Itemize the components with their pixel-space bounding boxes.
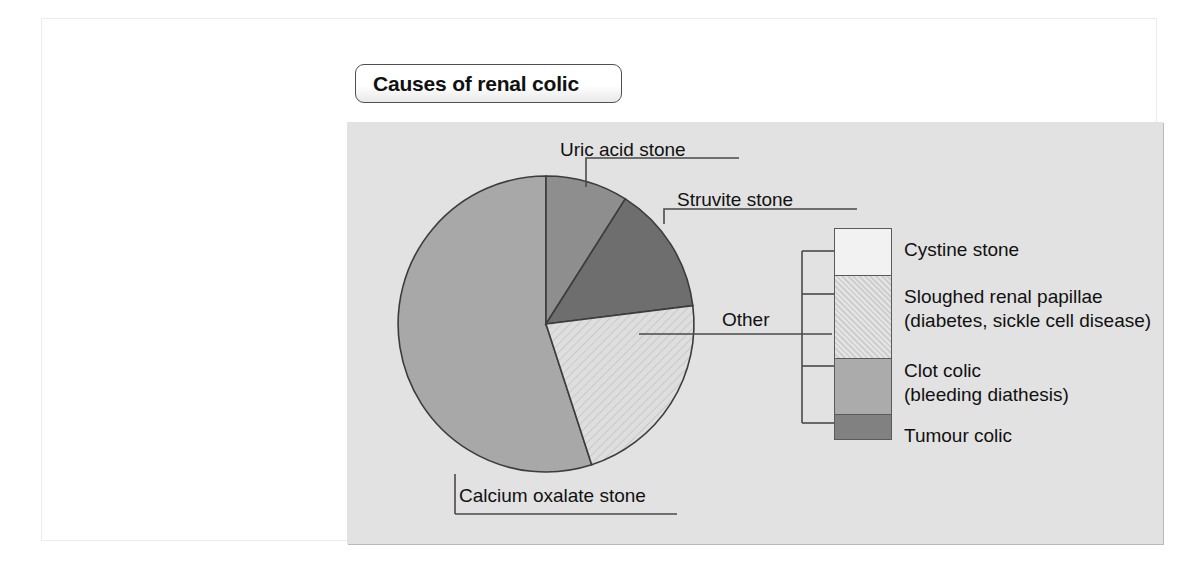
legend-label-tumour-colic: Tumour colic: [904, 424, 1012, 448]
leader-line-uric-acid: [586, 158, 739, 187]
legend-clot-line1: Clot colic: [904, 359, 1069, 383]
legend-tumour-line1: Tumour colic: [904, 424, 1012, 448]
pie-chart: [347, 122, 1163, 544]
pie-label-calcium-oxalate-stone: Calcium oxalate stone: [459, 484, 646, 507]
bar-segment-tumour-colic: [835, 414, 891, 439]
pie-label-struvite-stone: Struvite stone: [677, 188, 793, 211]
legend-label-cystine-stone: Cystine stone: [904, 238, 1019, 262]
bar-segment-sloughed-renal-papillae: [835, 275, 891, 358]
legend-sloughed-line1: Sloughed renal papillae: [904, 285, 1151, 309]
figure-title-box: Causes of renal colic: [355, 64, 622, 103]
chart-panel: Uric acid stone Struvite stone Other Cal…: [347, 122, 1163, 544]
figure-title-text: Causes of renal colic: [373, 72, 579, 96]
legend-label-clot-colic: Clot colic (bleeding diathesis): [904, 359, 1069, 407]
bar-segment-cystine-stone: [835, 229, 891, 275]
breakdown-bracket: [802, 251, 834, 423]
pie-label-uric-acid-stone: Uric acid stone: [560, 138, 686, 161]
pie-label-other: Other: [722, 308, 770, 331]
breakdown-stacked-bar: [834, 228, 892, 440]
bar-segment-clot-colic: [835, 358, 891, 414]
leader-line-struvite: [664, 209, 857, 224]
page-frame: Causes of renal colic: [41, 18, 1157, 541]
legend-cystine-line1: Cystine stone: [904, 238, 1019, 262]
legend-label-sloughed-renal-papillae: Sloughed renal papillae (diabetes, sickl…: [904, 285, 1151, 333]
legend-clot-line2: (bleeding diathesis): [904, 383, 1069, 407]
legend-sloughed-line2: (diabetes, sickle cell disease): [904, 309, 1151, 333]
